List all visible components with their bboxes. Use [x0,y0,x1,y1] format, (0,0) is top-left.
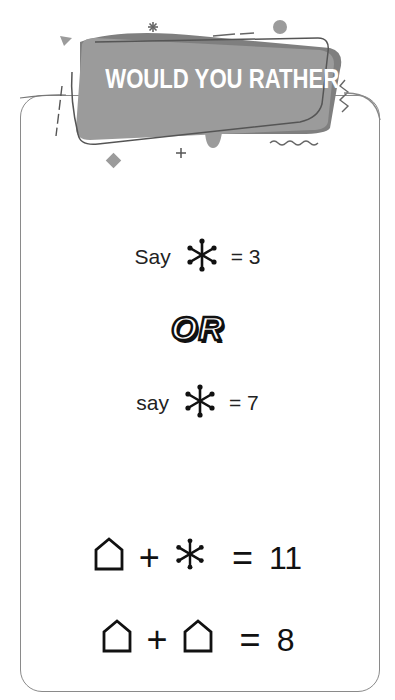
option-word: say [136,391,169,415]
diamond-decoration [106,153,122,169]
asterisk-decoration [148,22,158,32]
plus-decoration [176,148,186,158]
snowflake-icon [174,536,206,580]
house-icon [93,536,125,580]
option-row-1: Say = 3 [0,240,395,274]
triangle-decoration [60,36,72,46]
snowflake-icon [183,384,217,423]
wave-decoration [270,141,318,145]
option-word: Say [135,245,171,269]
equation-row-1: + = 11 [0,538,395,578]
equation-row-2: + = 8 [0,620,395,660]
equation-result: 8 [277,622,295,659]
option-value: = 7 [229,391,259,415]
dash-decoration [213,34,235,36]
snowflake-icon [185,238,219,277]
circle-decoration [273,20,287,34]
or-separator: OR [0,306,395,350]
banner-title: WOULD YOU RATHER [105,64,299,95]
equals-sign: = [232,537,253,579]
house-icon [101,618,133,662]
option-value: = 3 [231,245,261,269]
option-row-2: say = 7 [0,386,395,420]
house-icon [182,618,214,662]
or-text: OR [171,309,224,348]
equals-sign: = [240,619,261,661]
equation-result: 11 [269,540,302,577]
plus-operator: + [139,537,160,579]
dash-decoration [240,33,254,34]
zigzag-decoration [340,80,348,112]
plus-operator: + [147,619,168,661]
